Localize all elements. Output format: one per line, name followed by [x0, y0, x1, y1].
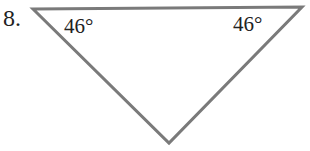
- angle-label-top-right: 46°: [233, 12, 262, 36]
- angle-label-top-left: 46°: [64, 14, 93, 38]
- triangle-diagram: 46° 46°: [0, 0, 310, 151]
